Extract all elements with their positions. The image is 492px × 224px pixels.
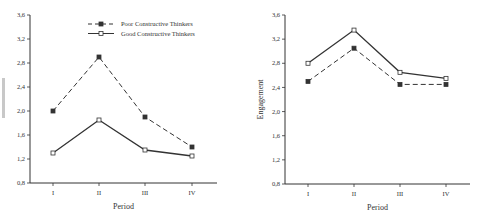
y-tick-label: 2,0 bbox=[17, 107, 25, 114]
y-axis-title-cropped bbox=[2, 78, 5, 118]
marker-open-square bbox=[398, 70, 402, 74]
y-axis-title: Engagement bbox=[256, 79, 265, 120]
y-tick-label: 2,8 bbox=[272, 59, 280, 66]
y-tick-label: 3,6 bbox=[272, 11, 281, 18]
chart-left: 0,81,21,62,02,42,83,23,6IIIIIIIVPeriodPo… bbox=[2, 11, 217, 211]
y-tick-label: 2,4 bbox=[17, 83, 26, 90]
marker-filled-square bbox=[97, 55, 101, 59]
x-tick-label: II bbox=[352, 190, 356, 197]
y-tick-label: 1,2 bbox=[272, 156, 280, 163]
x-axis-title: Period bbox=[113, 202, 134, 211]
x-axis-title: Period bbox=[367, 203, 388, 212]
marker-filled-square bbox=[51, 109, 55, 113]
marker-filled-square bbox=[143, 115, 147, 119]
x-tick-label: I bbox=[307, 190, 309, 197]
legend-marker-open-square bbox=[99, 32, 103, 36]
marker-open-square bbox=[51, 151, 55, 155]
chart-right-engagement: 0,81,21,62,02,42,83,23,6IIIIIIIVPeriodEn… bbox=[256, 11, 470, 212]
y-tick-label: 0,8 bbox=[272, 180, 280, 187]
y-tick-label: 3,2 bbox=[17, 35, 25, 42]
x-tick-label: IV bbox=[443, 190, 450, 197]
y-tick-label: 2,8 bbox=[17, 59, 25, 66]
series-line-poor bbox=[53, 57, 192, 147]
x-tick-label: I bbox=[52, 189, 54, 196]
marker-open-square bbox=[352, 28, 356, 32]
legend-label: Good Constructive Thinkers bbox=[121, 30, 195, 37]
marker-filled-square bbox=[444, 82, 448, 86]
marker-filled-square bbox=[190, 145, 194, 149]
y-tick-label: 1,6 bbox=[272, 132, 281, 139]
x-tick-label: II bbox=[97, 189, 101, 196]
marker-open-square bbox=[444, 76, 448, 80]
x-tick-label: III bbox=[142, 189, 149, 196]
y-tick-label: 1,2 bbox=[17, 155, 25, 162]
y-tick-label: 3,6 bbox=[17, 11, 26, 18]
marker-open-square bbox=[306, 61, 310, 65]
marker-open-square bbox=[97, 118, 101, 122]
marker-open-square bbox=[190, 154, 194, 158]
marker-filled-square bbox=[352, 46, 356, 50]
legend-marker-filled-square bbox=[99, 22, 103, 26]
marker-open-square bbox=[143, 148, 147, 152]
y-tick-label: 0,8 bbox=[17, 179, 25, 186]
y-tick-label: 2,4 bbox=[272, 84, 281, 91]
marker-filled-square bbox=[398, 82, 402, 86]
y-tick-label: 1,6 bbox=[17, 131, 26, 138]
y-tick-label: 3,2 bbox=[272, 35, 280, 42]
series-line-poor bbox=[308, 48, 446, 84]
legend: Poor Constructive ThinkersGood Construct… bbox=[88, 20, 195, 37]
x-tick-label: III bbox=[397, 190, 404, 197]
series-line-good bbox=[308, 30, 446, 78]
charts-container: 0,81,21,62,02,42,83,23,6IIIIIIIVPeriodPo… bbox=[0, 0, 492, 224]
series-line-good bbox=[53, 120, 192, 156]
legend-label: Poor Constructive Thinkers bbox=[121, 20, 193, 27]
y-tick-label: 2,0 bbox=[272, 108, 280, 115]
x-tick-label: IV bbox=[189, 189, 196, 196]
marker-filled-square bbox=[306, 79, 310, 83]
